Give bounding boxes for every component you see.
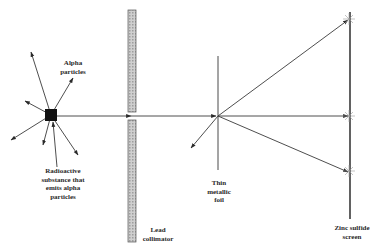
alpha-particles-label: Alpha particles: [50, 59, 96, 76]
flash-icon: [343, 13, 355, 25]
source-label: Radioactive substance that emits alpha p…: [28, 167, 98, 201]
rutherford-diagram: [0, 0, 382, 250]
flash-icon: [343, 165, 355, 177]
scattered-rays: [191, 20, 348, 172]
ray-backscatter: [191, 116, 218, 148]
foil-label: Thin metallic foil: [200, 179, 238, 205]
collimator-label: Lead collimator: [134, 226, 182, 243]
ray-deflect-up: [218, 20, 348, 116]
label-pointer: [53, 122, 57, 167]
lead-collimator: [128, 10, 136, 242]
radioactive-source: [45, 109, 57, 121]
flash-icon: [343, 110, 355, 122]
ray-deflect-down: [218, 116, 348, 172]
screen-label: Zinc sulfide screen: [324, 224, 380, 241]
flashes: [343, 13, 355, 177]
